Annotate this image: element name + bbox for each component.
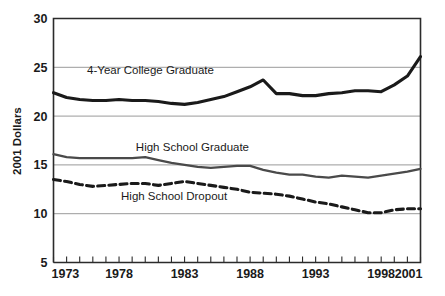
y-tick-labels-group: 51015202530 (34, 12, 48, 270)
series-line-high-school-graduate (54, 154, 421, 177)
series-lines-group (54, 57, 421, 213)
y-tick-label-20: 20 (34, 110, 48, 124)
series-annotation-high-school-dropout: High School Dropout (121, 190, 228, 202)
x-tick-label-1983: 1983 (171, 267, 199, 281)
x-tick-label-1993: 1993 (302, 267, 330, 281)
y-tick-label-25: 25 (34, 61, 48, 75)
y-tick-label-5: 5 (41, 256, 48, 270)
line-chart: 51015202530 1973197819831988199319982001… (0, 0, 445, 296)
series-line-high-school-dropout (54, 180, 421, 213)
x-tick-label-1998: 1998 (367, 267, 395, 281)
y-axis-title-group: 2001 Dollars (11, 107, 23, 175)
series-annotation-4-year-college-graduate: 4-Year College Graduate (87, 64, 214, 76)
series-annotation-high-school-graduate: High School Graduate (136, 141, 249, 153)
x-tick-labels-group: 1973197819831988199319982001 (52, 267, 423, 281)
chart-canvas: 51015202530 1973197819831988199319982001… (0, 0, 445, 296)
x-tick-label-2001: 2001 (395, 267, 423, 281)
y-tick-label-30: 30 (34, 12, 48, 26)
x-tick-label-1973: 1973 (52, 267, 80, 281)
series-annotations-group: 4-Year College GraduateHigh School Gradu… (87, 64, 249, 202)
y-axis-title: 2001 Dollars (11, 107, 23, 175)
x-tick-label-1978: 1978 (105, 267, 133, 281)
y-tick-label-15: 15 (34, 158, 48, 172)
x-tick-label-1988: 1988 (236, 267, 264, 281)
x-tickmarks-group (54, 257, 421, 263)
y-tick-label-10: 10 (34, 207, 48, 221)
